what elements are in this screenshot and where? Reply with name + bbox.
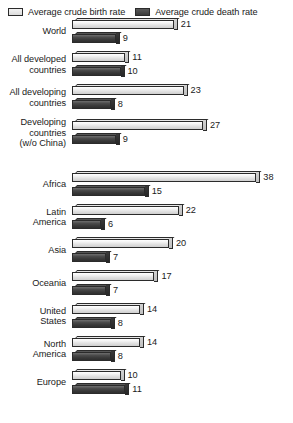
chart-category-group: UnitedStates148 — [0, 303, 293, 330]
category-label: Asia — [0, 245, 72, 256]
bar-value-label: 10 — [128, 370, 138, 381]
bar-end-cap — [111, 317, 115, 329]
category-label-line: America — [0, 217, 66, 228]
chart-category-group: All developedcountries1110 — [0, 51, 293, 78]
bar-row: 7 — [72, 284, 293, 297]
bar-row: 14 — [72, 303, 293, 316]
bar-value-label: 11 — [132, 52, 142, 63]
category-bars: 148 — [72, 336, 293, 363]
bar-end-cap — [106, 284, 110, 296]
death-rate-bar — [72, 65, 125, 77]
category-label-line: countries — [0, 98, 66, 109]
category-label-line: Asia — [0, 245, 66, 256]
death-rate-bar — [72, 185, 149, 197]
bar-value-label: 9 — [123, 33, 128, 44]
death-rate-bar — [72, 317, 115, 329]
bar-front-face — [72, 86, 184, 95]
category-bars: 279 — [72, 119, 293, 146]
chart-category-group: World219 — [0, 18, 293, 45]
bar-value-label: 17 — [161, 271, 171, 282]
bar-value-label: 8 — [118, 351, 123, 362]
bar-front-face — [72, 352, 111, 361]
category-label-line: countries — [0, 128, 66, 139]
category-label: Oceania — [0, 278, 72, 289]
legend-label: Average crude death rate — [155, 7, 257, 17]
legend-label: Average crude birth rate — [28, 7, 125, 17]
chart-category-group: Africa3815 — [0, 171, 293, 198]
bar-end-cap — [184, 84, 188, 96]
bar-front-face — [72, 272, 154, 281]
bar-value-label: 8 — [118, 318, 123, 329]
category-label-line: Latin — [0, 207, 66, 218]
bar-end-cap — [116, 32, 120, 44]
bar-row: 38 — [72, 171, 293, 184]
bar-end-cap — [140, 336, 144, 348]
bar-end-cap — [125, 51, 129, 63]
death-rate-bar — [72, 383, 129, 395]
bar-row: 11 — [72, 51, 293, 64]
bar-front-face — [72, 220, 101, 229]
category-label-line: Africa — [0, 179, 66, 190]
category-label-line: countries — [0, 65, 66, 76]
category-label-line: Europe — [0, 377, 66, 388]
category-label: Developingcountries(w/o China) — [0, 117, 72, 149]
bar-value-label: 7 — [113, 285, 118, 296]
bar-value-label: 6 — [108, 219, 113, 230]
legend-entry: Average crude death rate — [135, 7, 257, 17]
category-label: UnitedStates — [0, 306, 72, 327]
bar-value-label: 7 — [113, 252, 118, 263]
bar-front-face — [72, 319, 111, 328]
bar-row: 15 — [72, 185, 293, 198]
category-label: World — [0, 26, 72, 37]
category-bars: 1110 — [72, 51, 293, 78]
category-label-line: World — [0, 26, 66, 37]
bar-value-label: 14 — [147, 304, 157, 315]
bar-row: 14 — [72, 336, 293, 349]
birth-rate-bar — [72, 369, 125, 381]
bar-value-label: 10 — [128, 66, 138, 77]
category-label-line: America — [0, 349, 66, 360]
bar-front-face — [72, 67, 121, 76]
birth-rate-bar — [72, 51, 129, 63]
bar-end-cap — [125, 383, 129, 395]
chart-category-group: Developingcountries(w/o China)279 — [0, 117, 293, 149]
bar-front-face — [72, 20, 174, 29]
category-label-line: North — [0, 339, 66, 350]
bar-end-cap — [145, 185, 149, 197]
bar-front-face — [72, 385, 125, 394]
category-label-line: All developed — [0, 54, 66, 65]
bar-end-cap — [106, 251, 110, 263]
category-label-line: (w/o China) — [0, 138, 66, 149]
chart-legend: Average crude birth rateAverage crude de… — [0, 0, 293, 18]
chart-category-group: Oceania177 — [0, 270, 293, 297]
category-bars: 238 — [72, 84, 293, 111]
bar-row: 8 — [72, 350, 293, 363]
legend-entry: Average crude birth rate — [8, 7, 125, 17]
bar-value-label: 20 — [176, 238, 186, 249]
bar-value-label: 15 — [152, 186, 162, 197]
bar-front-face — [72, 100, 111, 109]
bar-end-cap — [203, 119, 207, 131]
bar-value-label: 21 — [181, 19, 191, 30]
bar-front-face — [72, 187, 145, 196]
bar-front-face — [72, 286, 106, 295]
bar-end-cap — [140, 303, 144, 315]
bar-value-label: 22 — [186, 205, 196, 216]
bar-row: 11 — [72, 383, 293, 396]
chart-category-group: Asia207 — [0, 237, 293, 264]
bar-value-label: 8 — [118, 99, 123, 110]
bar-front-face — [72, 173, 256, 182]
death-rate-bar — [72, 32, 120, 44]
bar-front-face — [72, 34, 116, 43]
bar-value-label: 27 — [210, 120, 220, 131]
death-rate-bar — [72, 284, 110, 296]
category-label: NorthAmerica — [0, 339, 72, 360]
category-bars: 226 — [72, 204, 293, 231]
bar-front-face — [72, 253, 106, 262]
birth-rate-swatch — [8, 8, 23, 16]
category-label: Europe — [0, 377, 72, 388]
chart-category-group: LatinAmerica226 — [0, 204, 293, 231]
bar-end-cap — [121, 65, 125, 77]
bar-row: 7 — [72, 251, 293, 264]
category-label: Africa — [0, 179, 72, 190]
